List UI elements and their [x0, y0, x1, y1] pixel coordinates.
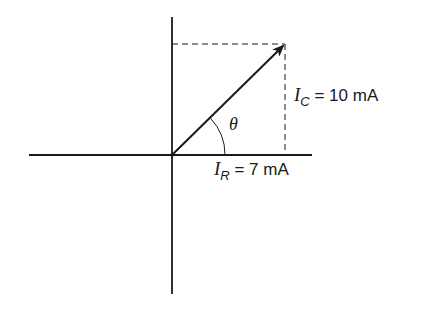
diagram-graphics — [0, 0, 425, 313]
resultant-vector-arrow — [172, 46, 283, 155]
angle-arc — [211, 118, 226, 155]
ic-subscript: C — [300, 94, 309, 109]
phasor-diagram: θ IC = 10 mA IR = 7 mA — [0, 0, 425, 313]
angle-theta-label: θ — [229, 114, 238, 135]
origin-point — [170, 153, 174, 157]
ir-subscript: R — [220, 168, 229, 183]
ic-value: = 10 mA — [314, 86, 378, 105]
ic-label: IC = 10 mA — [294, 84, 378, 106]
ir-label: IR = 7 mA — [214, 158, 289, 180]
ir-value: = 7 mA — [234, 160, 288, 179]
